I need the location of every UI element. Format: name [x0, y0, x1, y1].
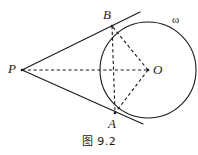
figure-page: P B A O ω 图 9.2: [0, 0, 198, 155]
figure-caption: 图 9.2: [0, 132, 198, 148]
circle-label-omega: ω: [172, 14, 179, 25]
tangent-line-pb: [22, 12, 140, 70]
point-o-dot: [147, 69, 150, 72]
dashed-radius-oa: [115, 70, 148, 113]
dashed-chord-ba: [112, 26, 115, 113]
point-b-dot: [111, 25, 114, 28]
dashed-radius-ob: [112, 26, 148, 70]
point-label-a: A: [108, 117, 116, 130]
point-p-dot: [21, 69, 24, 72]
point-label-b: B: [103, 8, 111, 21]
point-a-dot: [114, 112, 117, 115]
point-label-o: O: [153, 63, 162, 76]
point-label-p: P: [8, 62, 16, 75]
tangent-line-pa: [22, 70, 143, 124]
